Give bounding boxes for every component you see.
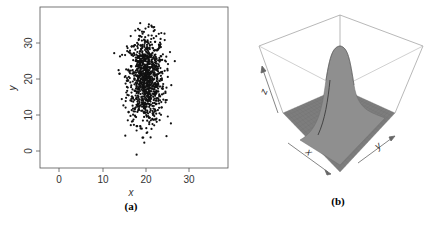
scatter-point [169,51,171,53]
scatter-point [148,103,150,105]
scatter-point [144,106,146,108]
scatter-point [162,83,164,85]
scatter-point [148,123,150,125]
scatter-point [139,29,141,31]
scatter-point [146,55,148,57]
x-tick-label: 20 [140,174,152,185]
scatter-point [144,77,146,79]
scatter-point [160,38,162,40]
scatter-point [153,37,155,39]
scatter-point [150,94,152,96]
scatter-point [157,88,159,90]
scatter-point [121,54,123,56]
caption-b: (b) [331,195,345,208]
scatter-point [157,70,159,72]
scatter-point [140,127,142,129]
scatter-point [151,34,153,36]
scatter-point [143,112,145,114]
scatter-point [155,97,157,99]
scatter-point [130,35,132,37]
scatter-point [152,110,154,112]
scatter-point [142,33,144,35]
scatter-point [139,35,141,37]
scatter-point [146,131,148,133]
scatter-point [143,31,145,33]
scatter-point [155,86,157,88]
scatter-point [167,69,169,71]
scatter-point [147,93,149,95]
scatter-point [139,104,141,106]
scatter-point [138,77,140,79]
scatter-point [149,63,151,65]
scatter-point [170,84,172,86]
scatter-point [146,44,148,46]
scatter-point [154,83,156,85]
scatter-point [133,99,135,101]
scatter-point [121,98,123,100]
scatter-point [134,90,136,92]
scatter-point [156,121,158,123]
scatter-point [128,111,130,113]
scatter-point [142,79,144,81]
scatter-point [125,83,127,85]
scatter-point [149,44,151,46]
y-tick-label: 0 [23,148,34,154]
scatter-point [150,136,152,138]
scatter-point [142,120,144,122]
scatter-point [164,39,166,41]
scatter-point [164,70,166,72]
scatter-point [150,38,152,40]
scatter-point [136,83,138,85]
scatter-point [132,114,134,116]
scatter-point [137,66,139,68]
scatter-point [141,31,143,33]
scatter-point [145,127,147,129]
y-axis-a [36,43,40,151]
scatter-point [153,72,155,74]
scatter-point [130,92,132,94]
scatter-point [152,92,154,94]
scatter-point [165,56,167,58]
scatter-point [151,52,153,54]
scatter-point [145,66,147,68]
scatter-point [158,85,160,87]
scatter-point [165,60,167,62]
scatter-point [150,41,152,43]
scatter-point [143,39,145,41]
scatter-point [136,45,138,47]
scatter-point [162,53,164,55]
scatter-point [136,62,138,64]
scatter-point [162,85,164,87]
scatter-point [158,112,160,114]
x-tick-label: 0 [56,174,62,185]
scatter-point [144,28,146,30]
scatter-point [155,56,157,58]
scatter-point [167,115,169,117]
scatter-point [153,98,155,100]
scatter-point [135,57,137,59]
scatter-point [130,124,132,126]
scatter-point [125,100,127,102]
scatter-point [129,115,131,117]
scatter-point [157,73,159,75]
scatter-point [128,51,130,53]
scatter-point [129,81,131,83]
scatter-point [162,99,164,101]
scatter-point [159,41,161,43]
scatter-point [140,59,142,61]
scatter-point [130,46,132,48]
scatter-point [146,48,148,50]
scatter-point [133,124,135,126]
scatter-point [143,142,145,144]
scatter-point [157,90,159,92]
y-tick-label: 20 [23,73,34,85]
scatter-point [144,53,146,55]
scatter-point [136,154,138,156]
scatter-point [142,92,144,94]
scatter-point [113,52,115,54]
scatter-point [134,114,136,116]
scatter-point [158,107,160,109]
caption-a: (a) [125,200,138,213]
scatter-point [157,48,159,50]
scatter-point [155,91,157,93]
